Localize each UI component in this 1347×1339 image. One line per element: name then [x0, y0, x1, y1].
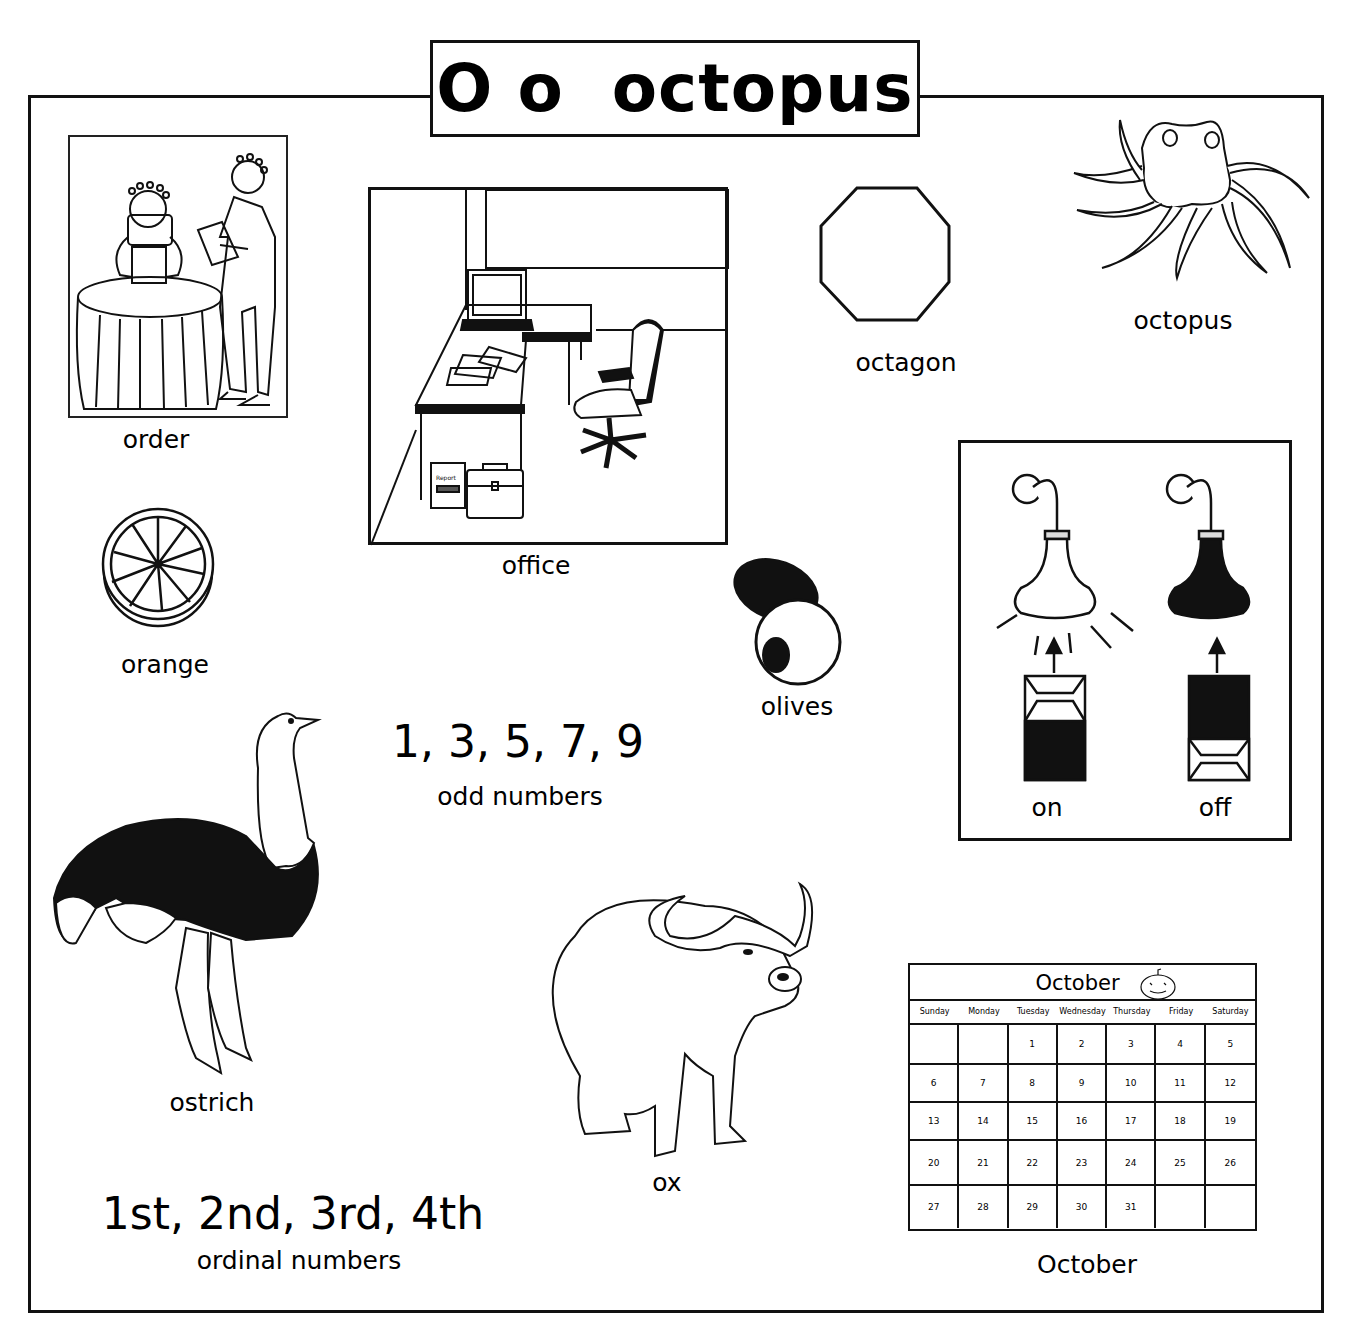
calendar-cell: 26: [1206, 1141, 1255, 1186]
office-picture: Report: [368, 187, 728, 545]
calendar-cell: 17: [1107, 1103, 1156, 1141]
day-name: Monday: [959, 1001, 1008, 1023]
calendar-cell: 19: [1206, 1103, 1255, 1141]
title-box: O o octopus: [430, 40, 920, 137]
ostrich-label: ostrich: [170, 1088, 255, 1117]
calendar-cell: 21: [959, 1141, 1008, 1186]
calendar-cell: 25: [1156, 1141, 1205, 1186]
off-label: off: [1199, 793, 1232, 822]
calendar-cell: 9: [1058, 1065, 1107, 1103]
olives-label: olives: [761, 692, 833, 721]
calendar-cell: 7: [959, 1065, 1008, 1103]
calendar-cell: 22: [1009, 1141, 1058, 1186]
calendar-cell: 4: [1156, 1025, 1205, 1065]
calendar-cell: 23: [1058, 1141, 1107, 1186]
calendar-cell: 13: [910, 1103, 959, 1141]
calendar-cell: 15: [1009, 1103, 1058, 1141]
order-picture: [68, 135, 288, 418]
odd-numbers-values: 1, 3, 5, 7, 9: [392, 716, 644, 767]
pumpkin-icon: [1138, 967, 1178, 1003]
ordinal-numbers-caption: ordinal numbers: [197, 1246, 402, 1275]
order-label: order: [123, 425, 190, 454]
calendar-cell: 2: [1058, 1025, 1107, 1065]
october-label: October: [1037, 1250, 1137, 1279]
restaurant-order-illustration: [70, 137, 290, 420]
calendar-day-names: Sunday Monday Tuesday Wednesday Thursday…: [910, 1001, 1255, 1025]
lamp-switch-illustration: [961, 443, 1295, 844]
calendar-cell: [1206, 1186, 1255, 1228]
olives-illustration: [736, 555, 846, 685]
odd-numbers-caption: odd numbers: [437, 782, 603, 811]
calendar-month: October: [910, 971, 1255, 995]
page-title: O o octopus: [436, 50, 913, 127]
report-label: Report: [436, 474, 457, 482]
ox-illustration: [545, 876, 815, 1166]
ostrich-illustration: [46, 708, 336, 1078]
calendar-cell: 31: [1107, 1186, 1156, 1228]
day-name: Thursday: [1107, 1001, 1156, 1023]
day-name: Saturday: [1206, 1001, 1255, 1023]
day-name: Wednesday: [1058, 1001, 1107, 1023]
office-label: office: [502, 551, 571, 580]
calendar-cell: 3: [1107, 1025, 1156, 1065]
calendar-cell: 8: [1009, 1065, 1058, 1103]
octopus-label: octopus: [1134, 306, 1233, 335]
octagon-label: octagon: [855, 348, 956, 377]
calendar-cell: 30: [1058, 1186, 1107, 1228]
orange-label: orange: [121, 650, 209, 679]
orange-slice-illustration: [100, 502, 220, 632]
octopus-illustration: [1072, 118, 1312, 288]
calendar-cell: [910, 1025, 959, 1065]
calendar-cell: 12: [1206, 1065, 1255, 1103]
day-name: Tuesday: [1009, 1001, 1058, 1023]
office-illustration: Report: [371, 190, 731, 548]
ordinal-numbers-values: 1st, 2nd, 3rd, 4th: [102, 1188, 484, 1239]
on-off-panel: on off: [958, 440, 1292, 841]
day-name: Friday: [1156, 1001, 1205, 1023]
calendar-cell: 20: [910, 1141, 959, 1186]
calendar-cell: 24: [1107, 1141, 1156, 1186]
ox-label: ox: [652, 1168, 681, 1197]
october-calendar: October Sunday Monday Tuesday Wednesday …: [908, 963, 1257, 1231]
octagon-shape: [817, 186, 957, 326]
day-name: Sunday: [910, 1001, 959, 1023]
calendar-grid: 1234567891011121314151617181920212223242…: [910, 1025, 1255, 1228]
calendar-cell: 5: [1206, 1025, 1255, 1065]
calendar-cell: 11: [1156, 1065, 1205, 1103]
calendar-cell: 18: [1156, 1103, 1205, 1141]
calendar-header: October: [910, 965, 1255, 1001]
calendar-cell: 29: [1009, 1186, 1058, 1228]
calendar-cell: 10: [1107, 1065, 1156, 1103]
calendar-cell: 27: [910, 1186, 959, 1228]
on-label: on: [1031, 793, 1062, 822]
calendar-cell: [1156, 1186, 1205, 1228]
calendar-cell: 14: [959, 1103, 1008, 1141]
calendar-cell: [959, 1025, 1008, 1065]
calendar-cell: 16: [1058, 1103, 1107, 1141]
calendar-cell: 1: [1009, 1025, 1058, 1065]
calendar-cell: 6: [910, 1065, 959, 1103]
calendar-cell: 28: [959, 1186, 1008, 1228]
